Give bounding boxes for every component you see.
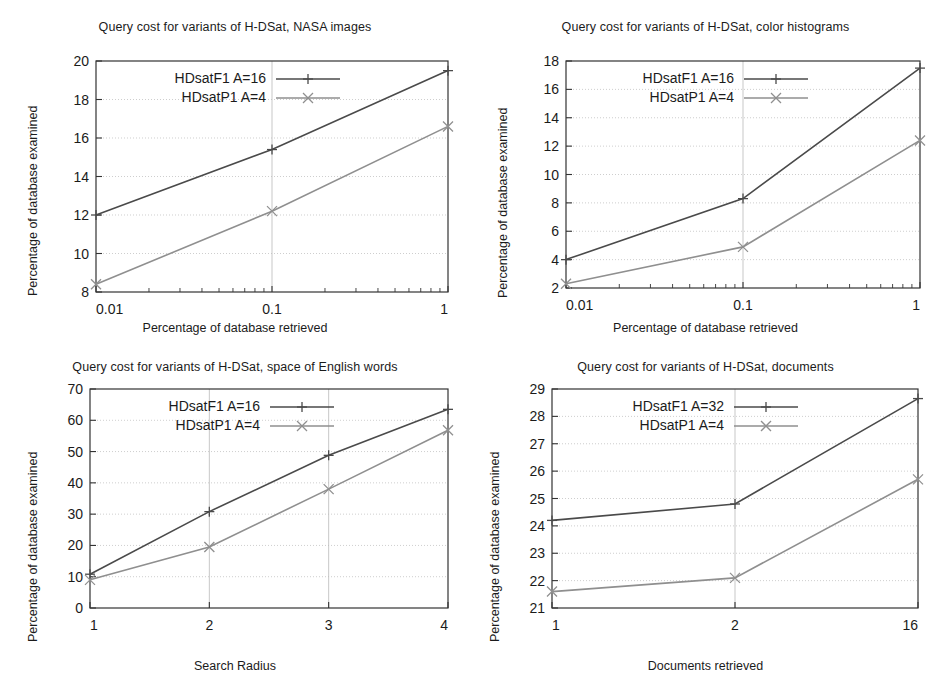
svg-text:21: 21 <box>529 600 545 616</box>
svg-text:16: 16 <box>902 617 918 633</box>
legend-label: HDsatP1 A=4 <box>650 89 735 105</box>
plot-area: 81012141618200.010.11HDsatF1 A=16HDsatP1… <box>0 0 470 347</box>
svg-text:1: 1 <box>90 617 98 633</box>
svg-text:30: 30 <box>67 506 83 522</box>
svg-text:4: 4 <box>440 617 448 633</box>
svg-text:0.1: 0.1 <box>733 297 753 313</box>
panel-nasa-images: Query cost for variants of H-DSat, NASA … <box>0 0 470 347</box>
svg-text:20: 20 <box>67 537 83 553</box>
svg-text:50: 50 <box>67 444 83 460</box>
svg-text:24: 24 <box>529 518 545 534</box>
svg-text:10: 10 <box>543 167 559 183</box>
svg-text:10: 10 <box>67 569 83 585</box>
svg-text:12: 12 <box>543 138 559 154</box>
svg-text:0.01: 0.01 <box>96 301 123 317</box>
svg-text:16: 16 <box>73 130 89 146</box>
svg-text:4: 4 <box>551 252 559 268</box>
legend-label: HDsatF1 A=32 <box>633 398 725 414</box>
svg-text:1: 1 <box>552 617 560 633</box>
svg-text:1: 1 <box>912 297 920 313</box>
svg-text:6: 6 <box>551 223 559 239</box>
svg-text:10: 10 <box>73 246 89 262</box>
legend-label: HDsatF1 A=16 <box>169 398 261 414</box>
svg-text:20: 20 <box>73 53 89 69</box>
svg-text:18: 18 <box>543 53 559 69</box>
svg-text:27: 27 <box>529 436 545 452</box>
legend-label: HDsatP1 A=4 <box>176 417 261 433</box>
svg-text:22: 22 <box>529 573 545 589</box>
svg-text:18: 18 <box>73 92 89 108</box>
svg-text:2: 2 <box>205 617 213 633</box>
x-axis-label: Percentage of database retrieved <box>470 321 941 335</box>
svg-text:0: 0 <box>75 600 83 616</box>
svg-text:14: 14 <box>543 110 559 126</box>
legend-label: HDsatP1 A=4 <box>182 89 267 105</box>
svg-text:40: 40 <box>67 475 83 491</box>
svg-text:28: 28 <box>529 408 545 424</box>
svg-text:26: 26 <box>529 463 545 479</box>
svg-text:2: 2 <box>551 280 559 296</box>
panel-color-histograms: Query cost for variants of H-DSat, color… <box>470 0 941 347</box>
svg-text:70: 70 <box>67 381 83 397</box>
plot-area: 2122232425262728291216HDsatF1 A=32HDsatP… <box>470 347 941 694</box>
x-axis-label: Search Radius <box>0 659 470 673</box>
legend-label: HDsatF1 A=16 <box>643 70 735 86</box>
legend-label: HDsatP1 A=4 <box>640 417 725 433</box>
svg-text:3: 3 <box>325 617 333 633</box>
svg-text:0.01: 0.01 <box>566 297 593 313</box>
svg-text:2: 2 <box>731 617 739 633</box>
svg-text:60: 60 <box>67 412 83 428</box>
svg-text:29: 29 <box>529 381 545 397</box>
svg-text:23: 23 <box>529 545 545 561</box>
svg-text:25: 25 <box>529 491 545 507</box>
svg-text:8: 8 <box>551 195 559 211</box>
svg-text:8: 8 <box>81 284 89 300</box>
legend-label: HDsatF1 A=16 <box>175 70 267 86</box>
panel-english-words: Query cost for variants of H-DSat, space… <box>0 347 470 694</box>
svg-text:0.1: 0.1 <box>262 301 282 317</box>
figure-grid: Query cost for variants of H-DSat, NASA … <box>0 0 941 694</box>
plot-area: 0102030405060701234HDsatF1 A=16HDsatP1 A… <box>0 347 470 694</box>
x-axis-label: Documents retrieved <box>470 659 941 673</box>
panel-documents: Query cost for variants of H-DSat, docum… <box>470 347 941 694</box>
plot-area: 246810121416180.010.11HDsatF1 A=16HDsatP… <box>470 0 941 347</box>
svg-text:14: 14 <box>73 169 89 185</box>
svg-text:16: 16 <box>543 81 559 97</box>
x-axis-label: Percentage of database retrieved <box>0 321 470 335</box>
svg-text:12: 12 <box>73 207 89 223</box>
svg-text:1: 1 <box>440 301 448 317</box>
